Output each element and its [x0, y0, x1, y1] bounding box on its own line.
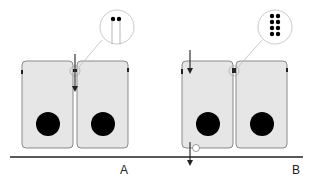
nucleus-b-right: [250, 112, 274, 136]
magnified-junction-circle: [100, 10, 134, 44]
junction-marker-icon: [127, 68, 129, 72]
arrow-down-icon: [187, 160, 193, 166]
diagram-canvas: [0, 0, 314, 179]
junction-marker-icon: [21, 70, 23, 74]
junction-dot-icon: [117, 17, 121, 21]
panel-label-a: A: [120, 163, 128, 177]
panel-b: [181, 10, 292, 166]
panel-label-b: B: [292, 163, 300, 177]
tight-junction-icon: [232, 68, 236, 73]
magnified-junction-circle: [258, 10, 292, 44]
nucleus-a-right: [91, 112, 115, 136]
panel-a: [21, 10, 134, 148]
nucleus-b-left: [196, 112, 220, 136]
nucleus-a-left: [36, 112, 60, 136]
junction-marker-icon: [286, 68, 288, 72]
vesicle-icon: [193, 145, 200, 152]
junction-marker-icon: [181, 69, 183, 74]
junction-dot-icon: [111, 17, 115, 21]
